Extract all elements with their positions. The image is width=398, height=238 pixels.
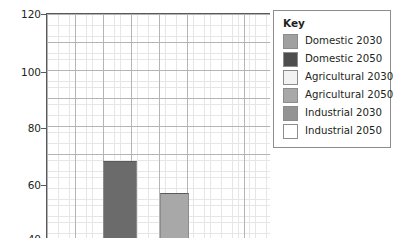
legend-item-label: Agricultural 2030 (305, 71, 393, 82)
y-tick-label-40: 40 (0, 234, 41, 238)
major-gridlines (47, 14, 270, 238)
legend-swatch-icon (283, 34, 298, 49)
y-axis-tick-labels: 120 100 80 60 40 (0, 0, 41, 238)
legend-item-label: Agricultural 2050 (305, 89, 393, 100)
legend-item-domestic-2050: Domestic 2050 (283, 52, 382, 67)
legend-item-domestic-2030: Domestic 2030 (283, 34, 382, 49)
plot-area (47, 14, 270, 238)
legend-swatch-icon (283, 88, 298, 103)
y-tick-label-80: 80 (0, 123, 41, 134)
legend-item-label: Domestic 2050 (305, 53, 382, 64)
bar-chart: % change 120 100 80 60 40 Key Domestic 2… (0, 0, 398, 238)
legend-item-label: Industrial 2030 (305, 107, 382, 118)
bar-domestic-2030 (103, 161, 137, 238)
bar-domestic-2050 (160, 193, 189, 238)
legend-item-agricultural-2050: Agricultural 2050 (283, 88, 382, 103)
legend-item-industrial-2050: Industrial 2050 (283, 124, 382, 139)
legend-item-agricultural-2030: Agricultural 2030 (283, 70, 382, 85)
legend-swatch-icon (283, 52, 298, 67)
y-tick-label-60: 60 (0, 180, 41, 191)
legend-swatch-icon (283, 70, 298, 85)
y-axis-line (46, 13, 47, 238)
legend-title: Key (283, 18, 382, 29)
legend-item-label: Industrial 2050 (305, 125, 382, 136)
y-tick-label-120: 120 (0, 9, 41, 20)
legend-swatch-icon (283, 106, 298, 121)
legend-swatch-icon (283, 124, 298, 139)
legend-item-industrial-2030: Industrial 2030 (283, 106, 382, 121)
legend-key-box: Key Domestic 2030 Domestic 2050 Agricult… (273, 10, 391, 148)
plot-top-border (46, 13, 270, 14)
y-tick-label-100: 100 (0, 67, 41, 78)
legend-item-label: Domestic 2030 (305, 35, 382, 46)
